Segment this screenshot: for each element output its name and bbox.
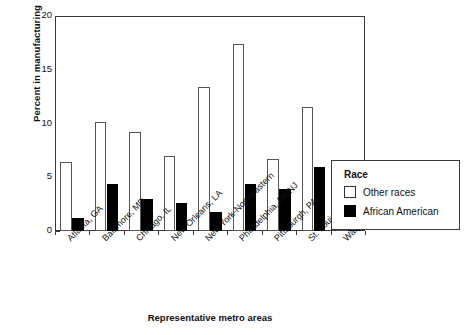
x-tick-mark	[55, 231, 56, 235]
legend-label-other-races: Other races	[363, 187, 415, 198]
x-tick-mark	[124, 231, 125, 235]
legend-swatch-other-races	[344, 186, 356, 198]
y-tick-label: 0	[12, 224, 52, 235]
y-tick-label: 5	[12, 170, 52, 181]
x-tick-mark	[193, 231, 194, 235]
bar	[164, 156, 176, 231]
y-tick-label: 10	[12, 117, 52, 128]
legend-item-other-races: Other races	[344, 186, 415, 198]
legend-title: Race	[344, 169, 368, 180]
x-tick-mark	[331, 231, 332, 235]
x-tick-mark	[89, 231, 90, 235]
legend: Race Other races African American	[331, 160, 460, 230]
y-tick-label: 15	[12, 63, 52, 74]
legend-swatch-african-american	[344, 205, 356, 217]
legend-item-african-american: African American	[344, 205, 439, 217]
bar	[60, 162, 72, 231]
x-axis-title: Representative metro areas	[55, 312, 365, 323]
x-tick-mark	[262, 231, 263, 235]
y-tick-label: 20	[12, 9, 52, 20]
x-tick-mark	[365, 231, 366, 235]
legend-label-african-american: African American	[363, 206, 439, 217]
x-tick-mark	[158, 231, 159, 235]
x-tick-mark	[227, 231, 228, 235]
x-tick-mark	[296, 231, 297, 235]
manufacturing-bar-chart: Percent in manufacturing 05101520 Atlant…	[0, 0, 465, 335]
